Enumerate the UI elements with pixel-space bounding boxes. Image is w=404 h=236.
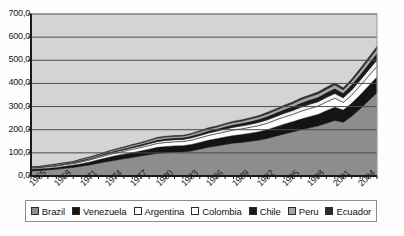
stacked-area-chart [0, 0, 404, 190]
legend-swatch-icon [191, 207, 199, 215]
legend-swatch-icon [31, 207, 39, 215]
legend-label: Chile [260, 206, 281, 217]
legend-label: Ecuador [336, 206, 371, 217]
chart-screenshot: 0,0100,0200,0300,0400,0500,0600,0700,0 1… [0, 0, 404, 236]
y-tick-label-600: 600,0 [0, 31, 30, 41]
y-tick-label-100: 100,0 [0, 147, 30, 157]
legend-item-argentina[interactable]: Argentina [134, 206, 185, 217]
legend-swatch-icon [288, 207, 296, 215]
legend-item-venezuela[interactable]: Venezuela [72, 206, 126, 217]
legend-item-ecuador[interactable]: Ecuador [325, 206, 371, 217]
legend-swatch-icon [325, 207, 333, 215]
legend-swatch-icon [249, 207, 257, 215]
legend-label: Venezuela [83, 206, 126, 217]
legend-item-peru[interactable]: Peru [288, 206, 319, 217]
legend-label: Colombia [202, 206, 241, 217]
legend-label: Brazil [42, 206, 65, 217]
y-tick-label-700: 700,0 [0, 8, 30, 18]
legend-swatch-icon [72, 207, 80, 215]
legend-label: Argentina [145, 206, 185, 217]
y-tick-label-400: 400,0 [0, 77, 30, 87]
y-tick-label-300: 300,0 [0, 101, 30, 111]
chart-legend: BrazilVenezuelaArgentinaColombiaChilePer… [25, 200, 377, 222]
legend-swatch-icon [134, 207, 142, 215]
legend-item-chile[interactable]: Chile [249, 206, 281, 217]
y-tick-label-200: 200,0 [0, 124, 30, 134]
legend-label: Peru [299, 206, 319, 217]
legend-item-colombia[interactable]: Colombia [191, 206, 241, 217]
y-tick-label-0: 0,0 [0, 170, 30, 180]
legend-item-brazil[interactable]: Brazil [31, 206, 65, 217]
y-tick-label-500: 500,0 [0, 54, 30, 64]
plot-container: 0,0100,0200,0300,0400,0500,0600,0700,0 1… [0, 0, 404, 190]
